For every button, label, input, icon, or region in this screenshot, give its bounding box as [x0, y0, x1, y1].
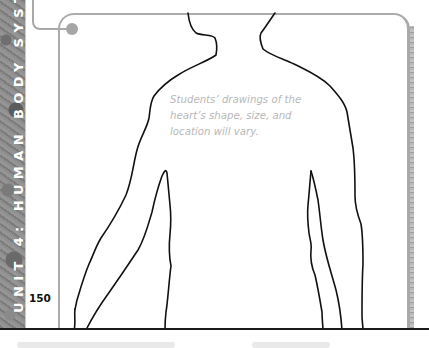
below-faded-shape-left — [17, 342, 175, 348]
left-arm-lower-outline — [74, 309, 75, 330]
right-inner-arm-outline — [308, 171, 323, 330]
heart-drawing-caption: Students’ drawings of the heart’s shape,… — [170, 92, 330, 140]
left-neck-shoulder-outline — [75, 13, 217, 309]
caption-line-1: Students’ drawings of the — [170, 92, 330, 108]
left-inner-arm-outline — [86, 171, 171, 330]
right-inner-arm-outline-2 — [311, 171, 342, 330]
caption-line-3: location will vary. — [170, 124, 330, 140]
caption-line-2: heart’s shape, size, and — [170, 108, 330, 124]
below-faded-shape-right — [252, 342, 330, 348]
